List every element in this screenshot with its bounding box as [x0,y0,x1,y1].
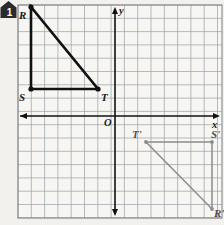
vertex-point-T-prime [144,140,148,144]
coordinate-plane-figure: 1 RSTT'S'R'yxO [0,0,224,225]
vertex-point-R [28,4,33,9]
point-label-S: S [19,92,25,103]
point-label-S-prime: S' [211,129,220,140]
point-label-T-prime: T' [132,129,142,140]
vertex-point-S [28,86,33,91]
point-label-T: T [101,92,108,103]
point-label-R: R [19,10,26,21]
x-axis-label: x [212,119,217,130]
origin-label: O [104,117,112,128]
question-number-badge: 1 [1,1,18,19]
point-label-R-prime: R' [214,208,224,219]
graph-canvas [0,0,224,225]
y-axis-label: y [119,5,124,16]
vertex-point-T [95,86,100,91]
vertex-point-S-prime [210,140,214,144]
question-number-text: 1 [1,1,18,19]
